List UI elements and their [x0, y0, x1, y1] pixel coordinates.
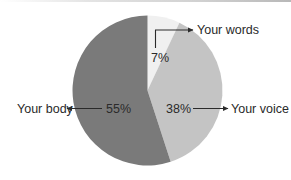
words-percent: 7%	[151, 51, 169, 65]
words-label: Your words	[197, 23, 259, 37]
voice-label: Your voice	[231, 102, 289, 116]
pie-slices	[73, 16, 223, 166]
pie-chart: Your words 7% 38% Your voice Your body 5…	[0, 0, 291, 180]
voice-percent: 38%	[166, 102, 191, 116]
body-percent: 55%	[106, 102, 131, 116]
body-label: Your body	[17, 102, 74, 116]
